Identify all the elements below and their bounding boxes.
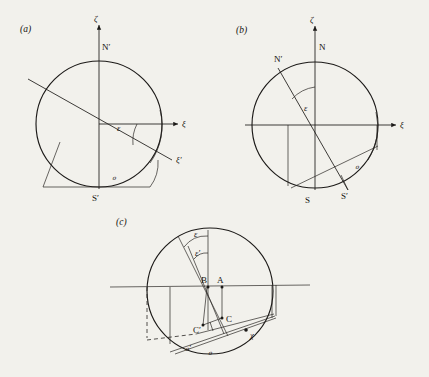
panel-c: (c) ε ε′ B A C C′ χ ℴ′ ℴ: [110, 217, 310, 357]
panel-a-zeta-label: ζ: [94, 14, 98, 24]
panel-c-point-C-prime-marker: [202, 324, 205, 327]
panel-c-chi-label: χ: [249, 330, 254, 340]
panel-c-circle: [147, 228, 273, 354]
panel-b-point-S-label: S: [305, 195, 310, 205]
panel-b-xi-label: ξ: [400, 120, 404, 130]
panel-c-point-A-marker: [221, 286, 224, 289]
panel-a-script-o-label: ℴ: [112, 172, 117, 182]
panel-c-horizontal-reference: [110, 285, 310, 287]
panel-c-point-B-label: B: [201, 275, 207, 285]
panel-c-point-B-marker: [207, 286, 210, 289]
panel-a-point-N-prime-label: N′: [102, 42, 110, 52]
panel-a: (a) ζ N′ ξ ξ′ ε ℴ S′: [20, 14, 186, 203]
diagram-svg: (a) ζ N′ ξ ξ′ ε ℴ S′: [0, 0, 429, 377]
panel-a-xi-prime-axis: [28, 79, 172, 160]
panel-b-epsilon-label: ε: [304, 103, 308, 113]
panel-b-circle-inner-trace: [368, 112, 378, 160]
panel-c-script-o-label: ℴ: [208, 347, 213, 357]
panel-b-point-N-prime-label: N′: [274, 54, 282, 64]
figure-root: (a) ζ N′ ξ ξ′ ε ℴ S′: [0, 0, 429, 377]
panel-b-ecliptic-chord: [291, 146, 378, 188]
panel-a-construction-radius: [43, 142, 60, 187]
panel-c-point-chi-marker: [244, 328, 248, 332]
panel-a-point-S-prime-label: S′: [92, 193, 99, 203]
panel-c-point-C-marker: [221, 317, 224, 320]
page-bleed-text: [300, 14, 425, 23]
panel-c-point-C-prime-label: C′: [193, 325, 201, 335]
panel-b-epsilon-arc: [292, 87, 315, 99]
panel-c-epsilon-prime-line: [188, 246, 224, 334]
panel-c-B-to-C-prime-line: [203, 287, 207, 325]
panel-a-epsilon-label: ε: [117, 123, 121, 133]
panel-a-construction-arc: [150, 160, 158, 187]
panel-b-polar-axis-rotated: [278, 68, 348, 190]
panel-a-epsilon-arc: [133, 124, 137, 145]
panel-c-point-A-label: A: [217, 275, 224, 285]
panel-a-xi-label: ξ: [182, 119, 186, 129]
panel-b-point-N-label: N: [319, 42, 326, 52]
panel-b-point-S-prime-label: S′: [341, 191, 348, 201]
panel-c-epsilon-prime-label: ε′: [195, 248, 200, 258]
panel-a-label: (a): [20, 24, 31, 35]
panel-c-point-C-label: C: [226, 314, 232, 324]
panel-c-label: (c): [116, 217, 127, 228]
panel-b: (b) ζ N N′ ξ ε ℴ S S′: [236, 15, 404, 205]
panel-b-label: (b): [236, 25, 247, 36]
panel-a-xi-prime-label: ξ′: [176, 155, 182, 165]
panel-c-script-o-prime-label: ℴ′: [185, 343, 191, 353]
panel-c-script-o-prime-chord-dashed: [147, 334, 196, 340]
